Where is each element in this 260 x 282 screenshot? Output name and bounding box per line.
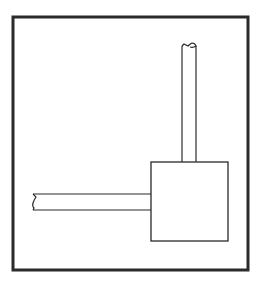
vertical-pipe-break-icon [182, 43, 196, 47]
pipe-tank-diagram [0, 0, 260, 282]
horizontal-pipe-break-icon [33, 194, 36, 210]
vertical-pipe [182, 43, 196, 162]
horizontal-pipe [33, 194, 151, 210]
tank-box [151, 162, 228, 241]
